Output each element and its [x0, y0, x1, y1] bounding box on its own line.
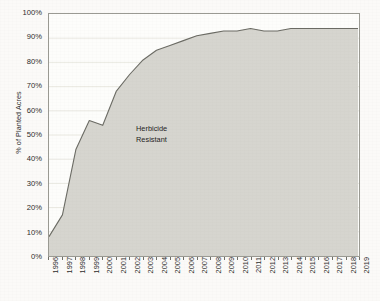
x-axis-tick-mark [156, 257, 157, 260]
x-axis-tick-mark [346, 257, 347, 260]
x-axis-tick-label: 2005 [173, 257, 182, 297]
x-axis-tick-label: 2001 [119, 257, 128, 297]
x-axis-tick-mark [210, 257, 211, 260]
x-axis-tick-label: 1999 [92, 257, 101, 297]
x-axis-tick-mark [318, 257, 319, 260]
x-axis-tick-label: 2012 [268, 257, 277, 297]
x-axis-tick-label: 2004 [160, 257, 169, 297]
x-axis-tick-mark [75, 257, 76, 260]
x-axis-tick-mark [197, 257, 198, 260]
x-axis-tick-mark [89, 257, 90, 260]
x-axis-tick-mark [129, 257, 130, 260]
x-axis-tick-label: 2015 [308, 257, 317, 297]
x-axis-tick-mark [48, 257, 49, 260]
x-axis-tick-label-group: 1996199719981999200020012002200320042005… [48, 257, 360, 301]
x-axis-tick-label: 2018 [349, 257, 358, 297]
x-axis-tick-mark [359, 257, 360, 260]
y-axis-tick-label: 0% [31, 253, 42, 261]
x-axis-tick-label: 2009 [227, 257, 236, 297]
x-axis-tick-mark [183, 257, 184, 260]
x-axis-tick-mark [224, 257, 225, 260]
y-axis-tick-label: 10% [27, 229, 42, 237]
x-axis-tick-label: 2010 [241, 257, 250, 297]
x-axis-tick-label: 2017 [335, 257, 344, 297]
x-axis-tick-label: 2006 [187, 257, 196, 297]
x-axis-tick-mark [251, 257, 252, 260]
x-axis-tick-mark [237, 257, 238, 260]
x-axis-tick-label: 2019 [362, 257, 371, 297]
herbicide-resistant-area-chart: % of Planted Acres 0%10%20%30%40%50%60%7… [0, 0, 380, 301]
y-axis-tick-label-group: 0%10%20%30%40%50%60%70%80%90%100% [0, 0, 45, 301]
x-axis-tick-mark [102, 257, 103, 260]
x-axis-tick-mark [264, 257, 265, 260]
x-axis-tick-mark [170, 257, 171, 260]
x-axis-tick-label: 2014 [295, 257, 304, 297]
plot-area [48, 13, 360, 257]
x-axis-tick-label: 2000 [105, 257, 114, 297]
x-axis-tick-label: 2008 [214, 257, 223, 297]
x-axis-tick-mark [62, 257, 63, 260]
y-axis-tick-label: 20% [27, 204, 42, 212]
x-axis-tick-label: 1998 [78, 257, 87, 297]
x-axis-tick-label: 1997 [65, 257, 74, 297]
x-axis-tick-label: 2013 [281, 257, 290, 297]
y-axis-tick-label: 40% [27, 155, 42, 163]
y-axis-tick-label: 50% [27, 131, 42, 139]
x-axis-tick-label: 2003 [146, 257, 155, 297]
x-axis-tick-label: 2016 [322, 257, 331, 297]
x-axis-tick-mark [116, 257, 117, 260]
y-axis-tick-label: 80% [27, 58, 42, 66]
x-axis-tick-label: 1996 [51, 257, 60, 297]
y-axis-tick-label: 90% [27, 33, 42, 41]
x-axis-tick-mark [291, 257, 292, 260]
y-axis-tick-label: 60% [27, 107, 42, 115]
x-axis-tick-mark [305, 257, 306, 260]
y-axis-tick-label: 30% [27, 180, 42, 188]
x-axis-tick-label: 2002 [133, 257, 142, 297]
y-axis-tick-label: 70% [27, 82, 42, 90]
x-axis-tick-mark [332, 257, 333, 260]
y-axis-tick-label: 100% [23, 9, 42, 17]
x-axis-tick-label: 2007 [200, 257, 209, 297]
x-axis-tick-label: 2011 [254, 257, 263, 297]
x-axis-tick-mark [278, 257, 279, 260]
area-series-svg [49, 14, 359, 256]
x-axis-tick-mark [143, 257, 144, 260]
